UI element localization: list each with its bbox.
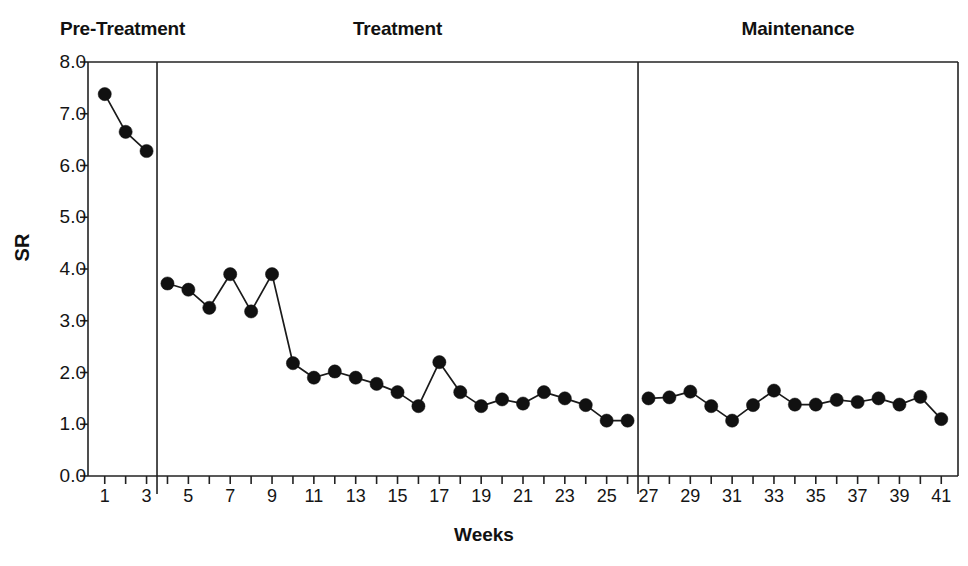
data-point [370,377,383,390]
data-point [788,398,801,411]
x-tick-label: 39 [889,486,909,507]
x-tick-label: 27 [638,486,658,507]
x-tick-label: 3 [142,486,152,507]
y-tick-label: 4.0 [34,258,86,280]
axis-lines [88,62,958,476]
data-point [516,397,529,410]
x-tick-label: 13 [346,486,366,507]
x-tick-label: 7 [225,486,235,507]
y-tick-label: 7.0 [34,103,86,125]
data-point [872,392,885,405]
data-point [475,400,488,413]
data-point [328,365,341,378]
y-tick-label: 3.0 [34,310,86,332]
y-tick-label: 0.0 [34,465,86,487]
x-tick-label: 5 [183,486,193,507]
x-tick-label: 17 [429,486,449,507]
data-point [767,384,780,397]
x-tick-label: 31 [722,486,742,507]
data-point [684,385,697,398]
data-point [830,393,843,406]
data-point [245,305,258,318]
x-axis-ticks [105,476,942,484]
data-line-segment-0 [105,94,147,151]
data-point [433,356,446,369]
y-tick-label: 1.0 [34,413,86,435]
x-tick-label: 41 [931,486,951,507]
plot-area [0,0,968,566]
x-tick-label: 29 [680,486,700,507]
data-point [537,386,550,399]
data-point [182,283,195,296]
x-tick-label: 25 [597,486,617,507]
data-point [579,399,592,412]
data-point [454,386,467,399]
chart-figure: Pre-Treatment Treatment Maintenance SR W… [0,0,968,566]
data-point [307,371,320,384]
y-tick-label: 8.0 [34,51,86,73]
data-point [161,277,174,290]
data-point [203,301,216,314]
y-tick-label: 2.0 [34,362,86,384]
data-point [140,144,153,157]
data-point [119,125,132,138]
x-tick-label: 37 [848,486,868,507]
data-point [412,400,425,413]
phase-label-maintenance: Maintenance [314,18,968,40]
data-point [286,357,299,370]
data-point [851,395,864,408]
data-point [726,414,739,427]
data-point [495,393,508,406]
data-point [705,400,718,413]
data-point [642,392,655,405]
data-point [663,391,676,404]
x-tick-label: 33 [764,486,784,507]
y-axis-tick-labels: 0.01.02.03.04.05.06.07.08.0 [0,0,86,566]
x-tick-label: 19 [471,486,491,507]
x-tick-label: 21 [513,486,533,507]
data-point [391,386,404,399]
data-point [265,268,278,281]
x-axis-title: Weeks [0,524,968,546]
x-tick-label: 23 [555,486,575,507]
data-point [600,414,613,427]
y-tick-label: 6.0 [34,155,86,177]
data-point [558,392,571,405]
data-point [935,412,948,425]
y-tick-label: 5.0 [34,206,86,228]
data-point [224,268,237,281]
x-tick-label: 1 [100,486,110,507]
data-markers [98,87,948,427]
data-point [98,87,111,100]
data-point [893,398,906,411]
x-tick-label: 11 [305,486,324,507]
data-point [809,398,822,411]
x-tick-label: 35 [806,486,826,507]
x-tick-label: 9 [267,486,277,507]
data-point [349,371,362,384]
data-line [105,94,942,421]
data-point [746,399,759,412]
data-point [914,390,927,403]
data-point [621,414,634,427]
x-tick-label: 15 [388,486,408,507]
